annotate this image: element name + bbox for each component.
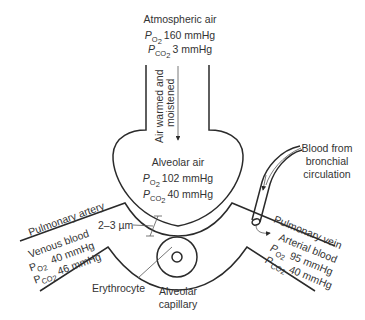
airflow-label-line2: moistened	[164, 78, 176, 127]
pulmonary-artery-label: Pulmonary artery	[27, 199, 107, 238]
capillary-label-line2: capillary	[159, 298, 198, 310]
membrane-thickness-indicator: 2–3 µm	[98, 216, 162, 236]
alveolar-gas-exchange-diagram: Atmospheric air PO2160 mmHg PCO23 mmHg A…	[0, 0, 365, 320]
erythrocyte-center-icon	[172, 252, 182, 262]
erythrocyte-label: Erythrocyte	[92, 282, 145, 294]
membrane-thickness-label: 2–3 µm	[98, 219, 133, 231]
erythrocyte-leader-line	[138, 247, 172, 278]
alveolar-air-label: Alveolar air	[152, 156, 205, 168]
bronchial-label-line3: circulation	[303, 168, 350, 180]
bronchial-label-line1: Blood from	[302, 142, 353, 154]
bronchial-outflow-arrow-icon	[256, 225, 270, 233]
alveolar-air-block: Alveolar air PO2102 mmHg PCO240 mmHg	[143, 156, 214, 205]
capillary-label-line1: Alveolar	[159, 285, 197, 297]
erythrocyte-icon	[157, 237, 197, 277]
alveolar-po2: PO2102 mmHg	[143, 172, 214, 189]
atmospheric-air-label: Atmospheric air	[144, 13, 217, 25]
alveolar-pco2: PCO240 mmHg	[143, 188, 213, 205]
atmospheric-air-block: Atmospheric air PO2160 mmHg PCO23 mmHg	[144, 13, 217, 60]
bronchial-label-line2: bronchial	[306, 155, 349, 167]
